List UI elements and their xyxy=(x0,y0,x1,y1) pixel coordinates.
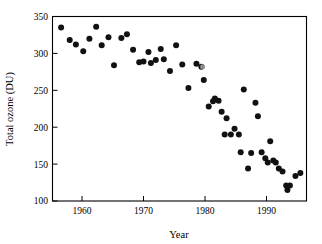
plot-frame xyxy=(53,17,307,202)
data-point xyxy=(216,98,222,104)
data-point-group xyxy=(58,24,303,193)
x-axis-ticks: 1960197019801990 xyxy=(73,196,277,216)
x-axis-label: Year xyxy=(169,229,189,240)
data-point xyxy=(67,37,73,43)
data-point xyxy=(206,104,212,110)
y-tick-label: 150 xyxy=(34,160,49,170)
y-tick-label: 350 xyxy=(34,12,49,22)
data-point xyxy=(238,149,244,155)
data-point xyxy=(255,113,261,119)
data-point xyxy=(105,34,111,40)
data-point xyxy=(201,77,207,83)
y-tick-label: 250 xyxy=(34,86,49,96)
data-point xyxy=(111,62,117,68)
data-point xyxy=(99,42,105,48)
data-point xyxy=(86,36,92,42)
data-point xyxy=(141,59,147,65)
x-tick-label: 1980 xyxy=(196,206,215,216)
data-point xyxy=(118,35,124,41)
data-point xyxy=(179,61,185,67)
y-axis-label: Total ozone (DU) xyxy=(4,72,16,146)
data-point xyxy=(161,56,167,62)
data-point xyxy=(93,24,99,30)
data-point xyxy=(236,132,242,138)
data-point xyxy=(287,183,293,189)
data-point xyxy=(145,49,151,55)
data-point xyxy=(265,160,271,166)
data-point xyxy=(124,31,130,37)
y-tick-label: 300 xyxy=(34,49,49,59)
data-point xyxy=(185,85,191,91)
data-point xyxy=(73,42,79,48)
data-point xyxy=(241,87,247,93)
data-point xyxy=(200,64,205,69)
x-tick-label: 1960 xyxy=(73,206,92,216)
data-point xyxy=(248,150,254,156)
y-tick-label: 100 xyxy=(34,196,49,206)
data-point xyxy=(80,48,86,54)
data-point xyxy=(130,47,136,53)
data-point xyxy=(273,160,279,166)
data-point xyxy=(280,168,286,174)
data-point xyxy=(252,100,258,106)
data-point xyxy=(222,132,228,138)
data-point xyxy=(167,68,173,74)
scatter-plot-canvas: 100150200250300350 1960197019801990 Year… xyxy=(0,0,322,244)
data-point xyxy=(173,42,179,48)
data-point xyxy=(232,126,238,132)
data-point xyxy=(58,25,64,31)
x-tick-label: 1970 xyxy=(134,206,153,216)
data-point xyxy=(245,166,251,172)
y-axis-ticks: 100150200250300350 xyxy=(34,12,58,207)
x-tick-label: 1990 xyxy=(257,206,276,216)
data-point xyxy=(228,132,234,138)
data-point xyxy=(219,109,225,115)
data-point xyxy=(224,115,230,121)
data-point xyxy=(267,138,273,144)
y-tick-label: 200 xyxy=(34,123,49,133)
data-point xyxy=(158,46,164,52)
data-point xyxy=(153,57,159,63)
data-point xyxy=(259,149,265,155)
ozone-scatter-figure: 100150200250300350 1960197019801990 Year… xyxy=(0,0,322,244)
data-point xyxy=(297,170,303,176)
